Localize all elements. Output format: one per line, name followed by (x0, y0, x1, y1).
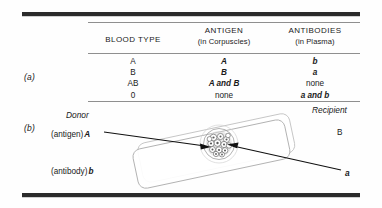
table-body: A A b B B a AB A and B none 0 none a and… (88, 53, 360, 101)
column-header-antigen-subtext: (in Corpuscles) (178, 37, 270, 48)
cell-antigen-text: A (221, 57, 227, 66)
table-row: 0 none a and b (88, 90, 360, 101)
column-header-blood-type-text: BLOOD TYPE (105, 35, 160, 44)
cell-antibodies-text: a and b (301, 91, 330, 100)
recipient-label: Recipient (312, 105, 347, 115)
blood-type-table: BLOOD TYPE ANTIGEN (in Corpuscles) ANTIB… (88, 22, 360, 101)
donor-antigen-label: (antigen)A (51, 130, 90, 139)
donor-antibody-label: (antibody)b (51, 167, 93, 176)
cell-antibodies: none (270, 78, 360, 89)
donor-antigen-value: A (83, 130, 90, 139)
cell-antigen: none (178, 90, 270, 101)
cell-antigen-text: B (221, 68, 227, 77)
cell-antibodies: a and b (270, 90, 360, 101)
column-header-antibodies-subtext: (in Plasma) (270, 37, 360, 48)
table-rule-bottom (88, 101, 360, 102)
recipient-blood-type: B (337, 128, 342, 137)
cell-antigen: B (178, 67, 270, 78)
column-header-antibodies-text: ANTIBODIES (289, 26, 342, 35)
panel-label-a: (a) (24, 72, 35, 82)
table-row: B B a (88, 67, 360, 78)
figure-bottom-rule (22, 193, 360, 197)
cell-blood-type: A (88, 56, 178, 67)
column-header-antigen: ANTIGEN (in Corpuscles) (178, 26, 270, 47)
table-row: AB A and B none (88, 78, 360, 89)
slide-illustration (0, 104, 382, 194)
column-header-antigen-text: ANTIGEN (205, 26, 244, 35)
figure-top-rule (22, 12, 360, 16)
agglutination-clump (206, 131, 232, 157)
agglutination-diagram: Donor Recipient (antigen)A (antibody)b B… (0, 104, 382, 194)
column-header-antibodies: ANTIBODIES (in Plasma) (270, 26, 360, 47)
cell-antigen: A and B (178, 78, 270, 89)
cell-antibodies: a (270, 67, 360, 78)
cell-blood-type: B (88, 67, 178, 78)
donor-antibody-label-text: (antibody) (51, 167, 87, 176)
donor-antigen-label-text: (antigen) (51, 130, 83, 139)
donor-label: Donor (66, 110, 89, 120)
table-row: A A b (88, 56, 360, 67)
cell-antigen: A (178, 56, 270, 67)
cell-antibodies-text: b (312, 57, 317, 66)
cell-blood-type: 0 (88, 90, 178, 101)
cell-blood-type: AB (88, 78, 178, 89)
column-header-blood-type: BLOOD TYPE (88, 35, 178, 46)
recipient-antibody-value: a (345, 168, 350, 178)
cell-antibodies-text: a (313, 68, 318, 77)
table-header-row: BLOOD TYPE ANTIGEN (in Corpuscles) ANTIB… (88, 22, 360, 53)
blood-type-figure: (a) BLOOD TYPE ANTIGEN (in Corpuscles) A… (0, 0, 382, 208)
donor-antibody-value: b (87, 167, 93, 176)
cell-antigen-text: A and B (209, 79, 240, 88)
cell-antibodies: b (270, 56, 360, 67)
